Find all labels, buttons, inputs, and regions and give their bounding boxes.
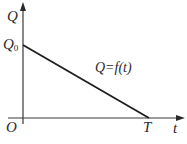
initial-value-label: Q0 — [3, 37, 18, 53]
x-axis-arrow-icon — [176, 115, 185, 121]
y-axis-label: Q — [7, 9, 18, 24]
origin-label: O — [6, 120, 17, 135]
function-label: Q=f(t) — [95, 61, 132, 75]
diagram-canvas — [0, 0, 187, 144]
initial-value-symbol: Q — [3, 36, 14, 52]
initial-value-subscript: 0 — [14, 43, 19, 53]
end-point-label: T — [143, 120, 151, 135]
x-axis-label: t — [173, 121, 177, 136]
function-line — [23, 45, 149, 118]
y-axis-arrow-icon — [20, 2, 26, 11]
